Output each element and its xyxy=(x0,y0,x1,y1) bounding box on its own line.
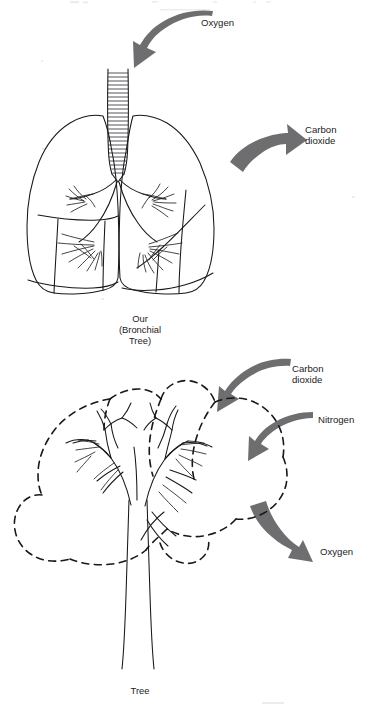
figure-root: Oxygen Carbon dioxide Our (Bronchial Tre… xyxy=(0,0,384,714)
scan-noise xyxy=(41,1,355,704)
carbon-dioxide-out-label-line1: Carbon xyxy=(305,124,336,135)
lungs-caption-line3: Tree) xyxy=(100,335,180,346)
nitrogen-in-label: Nitrogen xyxy=(318,414,354,425)
oxygen-in-label: Oxygen xyxy=(201,17,234,28)
nitrogen-in-arrow xyxy=(248,412,313,461)
oxygen-out-label: Oxygen xyxy=(320,546,353,557)
carbon-dioxide-in-label-line1: Carbon xyxy=(292,363,323,374)
tree-caption: Tree xyxy=(100,685,180,696)
lungs-caption-line1: Our xyxy=(100,313,180,324)
tree-panel xyxy=(14,359,313,669)
carbon-dioxide-in-arrow xyxy=(217,359,291,412)
oxygen-out-arrow xyxy=(250,501,313,562)
carbon-dioxide-out-label-line2: dioxide xyxy=(305,135,335,146)
lungs-caption-line2: (Bronchial xyxy=(100,324,180,335)
diagram-canvas xyxy=(0,0,384,714)
carbon-dioxide-out-arrow xyxy=(230,124,307,172)
carbon-dioxide-in-label-line2: dioxide xyxy=(292,374,322,385)
lungs-panel xyxy=(27,10,307,294)
